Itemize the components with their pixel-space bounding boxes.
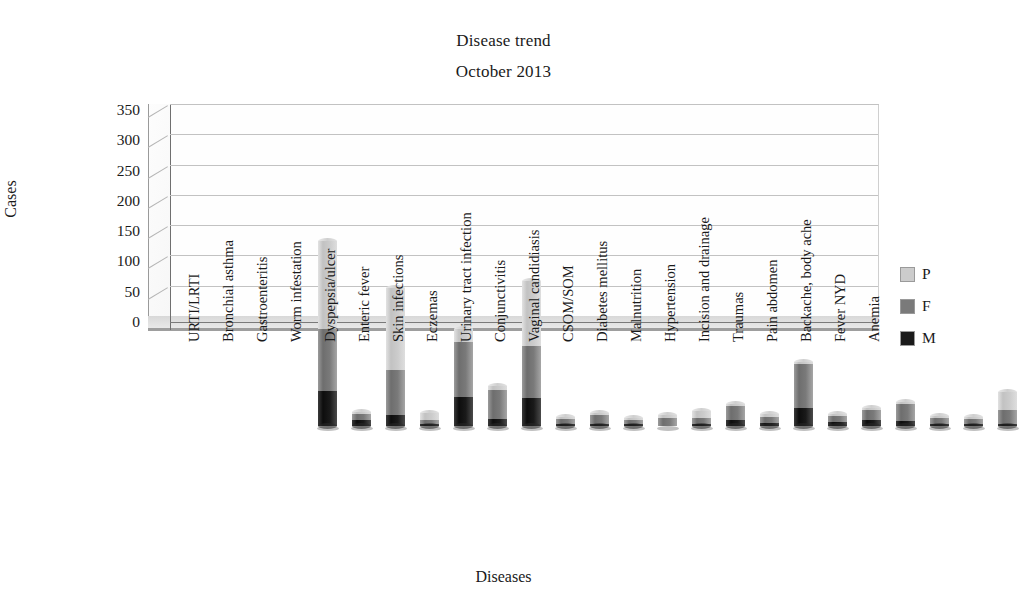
gridline-300 (170, 134, 878, 135)
legend-swatch-icon (900, 299, 915, 314)
x-tick-label: URTI/LRTI (187, 274, 202, 342)
y-axis-tick-labels: 050100150200250300350 (88, 104, 140, 336)
legend-item-p[interactable]: P (900, 258, 936, 290)
x-tick-label: Malnutrition (629, 269, 644, 342)
x-tick-label: CSOM/SOM (561, 265, 576, 342)
legend-swatch-icon (900, 267, 915, 282)
gridline-350 (170, 104, 878, 105)
y-axis-line (170, 104, 171, 330)
legend-item-f[interactable]: F (900, 290, 936, 322)
bar-segment-p[interactable] (998, 392, 1017, 410)
bar-segment-m[interactable] (964, 424, 983, 426)
y-tick-350: 350 (98, 102, 140, 118)
x-tick-label: Enteric fever (357, 267, 372, 342)
y-axis-back-line (148, 104, 149, 316)
legend-label: F (922, 297, 931, 315)
x-tick-label: Hypertension (663, 264, 678, 342)
x-tick-label: Gastroenteritis (255, 257, 270, 342)
y-tick-150: 150 (98, 223, 140, 239)
x-tick-label: Anemia (867, 296, 882, 342)
x-tick-label: Skin infections (391, 255, 406, 342)
x-tick-label: Dyspepsia/ulcer (323, 249, 338, 342)
bar-segment-f[interactable] (998, 410, 1017, 423)
y-tick-300: 300 (98, 132, 140, 148)
x-tick-label: Traumas (731, 292, 746, 342)
x-tick-label: Bronchial asthma (221, 240, 236, 342)
x-tick-label: Fever NYD (833, 274, 848, 342)
x-tick-label: Conjunctivitis (493, 260, 508, 342)
y-axis-title: Cases (2, 180, 20, 217)
bar-column[interactable] (930, 416, 949, 426)
bar-column[interactable] (964, 417, 983, 426)
chart-title-line1: Disease trend (0, 31, 1007, 51)
bar-base-cap (964, 423, 983, 429)
y-tick-50: 50 (98, 284, 140, 300)
gridline-200 (170, 195, 878, 196)
x-tick-label: Eczemas (425, 290, 440, 342)
y-tick-100: 100 (98, 253, 140, 269)
x-axis-tick-labels: URTI/LRTIBronchial asthmaGastroenteritis… (170, 336, 910, 566)
legend: PFM (900, 258, 936, 354)
y-tick-200: 200 (98, 193, 140, 209)
gridline-250 (170, 165, 878, 166)
bar-column[interactable] (998, 392, 1017, 426)
bar-segment-m[interactable] (998, 424, 1017, 426)
legend-label: M (922, 329, 936, 347)
bar-segment-m[interactable] (930, 424, 949, 426)
bar-base-cap (930, 423, 949, 429)
x-tick-label: Diabetes mellitus (595, 241, 610, 342)
y-tick-250: 250 (98, 163, 140, 179)
chart-title-line2: October 2013 (0, 62, 1007, 82)
legend-swatch-icon (900, 331, 915, 346)
legend-item-m[interactable]: M (900, 322, 936, 354)
x-tick-label: Incision and drainage (697, 217, 712, 342)
y-tick-0: 0 (98, 314, 140, 330)
x-axis-title: Diseases (0, 568, 1007, 586)
x-tick-label: Vaginal candidiasis (527, 230, 542, 342)
x-tick-label: Pain abdomen (765, 259, 780, 342)
x-tick-label: Worm infestation (289, 241, 304, 342)
x-tick-label: Backache, body ache (799, 219, 814, 342)
bar-base-cap (998, 423, 1017, 429)
x-tick-label: Urinary tract infection (459, 212, 474, 342)
legend-label: P (922, 265, 931, 283)
